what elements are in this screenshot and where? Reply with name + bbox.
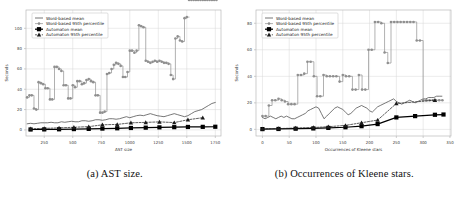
data-point-marker <box>92 81 95 84</box>
chart-legend: Word-based meanWord-based 95th percentil… <box>32 13 108 38</box>
data-point-marker <box>145 60 148 63</box>
legend-label-auto-mean: Automaton mean <box>46 27 83 32</box>
data-point-marker <box>65 84 68 87</box>
figure-row: 0204060801002505007501000125015001750AST… <box>0 0 459 199</box>
data-point-marker <box>106 73 109 76</box>
x-tick-label: 250 <box>41 140 49 145</box>
data-point-marker <box>322 74 325 77</box>
data-point-marker <box>389 21 392 24</box>
data-point-marker <box>367 48 370 51</box>
data-point-marker <box>277 98 280 101</box>
data-point-marker <box>357 74 360 77</box>
data-point-marker <box>81 83 84 86</box>
x-tick-label: 200 <box>366 140 374 145</box>
kleene-stars-plot[interactable]: 020406080050100150200250300350Occurrence… <box>230 0 459 170</box>
data-point-marker <box>283 100 286 103</box>
data-point-marker <box>161 61 164 64</box>
data-point-marker <box>129 49 132 52</box>
y-tick-label: 100 <box>15 26 23 31</box>
y-axis-title: Seconds <box>4 64 9 81</box>
y-tick-label: 20 <box>17 107 22 112</box>
data-point-marker <box>271 99 274 102</box>
data-point-marker <box>287 103 290 106</box>
x-tick-label: 750 <box>98 140 106 145</box>
data-point-marker <box>290 103 293 106</box>
data-point-marker <box>215 0 218 1</box>
x-tick-label: 0 <box>261 140 264 145</box>
data-point-marker <box>183 17 186 20</box>
data-point-marker <box>51 98 54 101</box>
data-point-marker <box>312 75 315 78</box>
data-point-marker <box>72 84 75 87</box>
data-point-marker <box>53 66 56 69</box>
x-tick-label: 1500 <box>182 140 192 145</box>
data-point-marker <box>163 62 166 65</box>
data-point-marker <box>140 25 143 28</box>
y-tick-label: 40 <box>17 87 22 92</box>
legend-marker <box>267 22 270 25</box>
data-point-marker <box>361 88 364 91</box>
data-point-marker <box>274 99 277 102</box>
data-point-marker <box>377 21 380 24</box>
data-point-marker <box>95 94 98 97</box>
data-point-marker <box>172 125 176 129</box>
data-point-marker <box>167 63 170 66</box>
data-point-marker <box>316 95 319 98</box>
data-point-marker <box>177 35 180 38</box>
x-tick-label: 250 <box>392 140 400 145</box>
data-point-marker <box>383 51 386 54</box>
data-point-marker <box>344 75 347 78</box>
data-point-marker <box>122 76 125 79</box>
data-point-marker <box>85 79 88 82</box>
data-point-marker <box>204 0 207 1</box>
data-point-marker <box>386 62 389 65</box>
data-point-marker <box>335 75 338 78</box>
data-point-marker <box>186 125 190 129</box>
x-tick-label: 1750 <box>211 140 221 145</box>
data-point-marker <box>144 126 148 130</box>
data-point-marker <box>117 63 120 66</box>
data-point-marker <box>99 111 102 114</box>
data-point-marker <box>319 95 322 98</box>
x-tick-label: 350 <box>446 140 454 145</box>
data-point-marker <box>47 87 50 90</box>
data-point-marker <box>104 110 107 113</box>
data-point-marker <box>195 0 198 1</box>
subfigure-a: 0204060801002505007501000125015001750AST… <box>0 0 230 199</box>
data-point-marker <box>399 21 402 24</box>
data-point-marker <box>394 115 398 119</box>
data-point-marker <box>213 125 217 129</box>
chart-kleene-stars: 020406080050100150200250300350Occurrence… <box>230 0 459 170</box>
legend-label-word-mean: Word-based mean <box>276 16 314 21</box>
ast-size-plot[interactable]: 0204060801002505007501000125015001750AST… <box>0 0 229 170</box>
data-point-marker <box>49 98 52 101</box>
data-point-marker <box>415 39 418 42</box>
data-point-marker <box>58 68 61 71</box>
data-point-marker <box>63 84 66 87</box>
data-point-marker <box>190 0 193 1</box>
data-point-marker <box>83 82 86 85</box>
data-point-marker <box>131 49 134 52</box>
y-tick-label: 60 <box>17 66 22 71</box>
data-point-marker <box>354 88 357 91</box>
y-tick-label: 40 <box>247 74 252 79</box>
x-axis-title: AST size <box>115 147 133 152</box>
data-point-marker <box>126 71 129 74</box>
data-point-marker <box>441 112 445 116</box>
data-point-marker <box>133 51 136 54</box>
data-point-marker <box>188 0 191 1</box>
data-point-marker <box>412 21 415 24</box>
data-point-marker <box>26 96 29 99</box>
data-point-marker <box>174 37 177 40</box>
data-point-marker <box>296 74 299 77</box>
data-point-marker <box>201 125 205 129</box>
data-point-marker <box>186 16 189 19</box>
data-point-marker <box>325 75 328 78</box>
chart-legend: Word-based meanWord-based 95th percentil… <box>262 13 338 38</box>
data-point-marker <box>152 61 155 64</box>
data-point-marker <box>172 120 176 124</box>
data-point-marker <box>165 62 168 65</box>
data-point-marker <box>375 118 379 122</box>
x-tick-label: 50 <box>286 140 291 145</box>
data-point-marker <box>158 125 162 129</box>
